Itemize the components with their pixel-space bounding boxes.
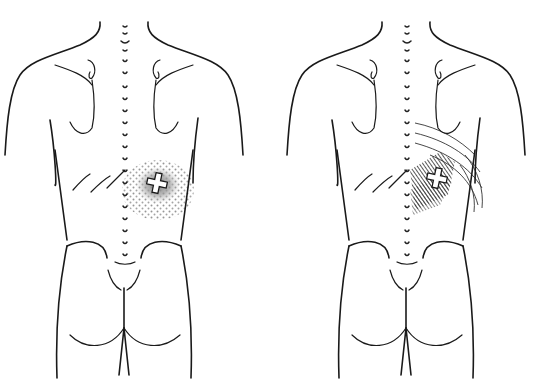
trigger-point-diagram: [0, 0, 534, 392]
figure-left: [5, 22, 243, 378]
spine-vertebrae-right: [403, 26, 411, 256]
diagram-canvas: [0, 0, 534, 392]
figure-right: [287, 22, 525, 378]
body-outline-left: [5, 22, 243, 378]
spine-vertebrae-left: [121, 26, 129, 256]
body-outline-right: [287, 22, 525, 378]
referral-zone-hatched: [410, 123, 482, 215]
